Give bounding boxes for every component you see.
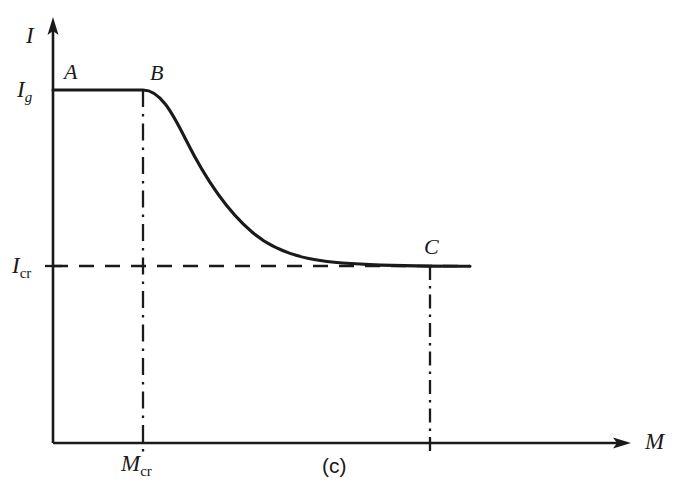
y-tick-icr-subscript: cr xyxy=(20,265,32,281)
x-tick-mcr-base: M xyxy=(121,451,140,476)
plot-canvas xyxy=(0,0,683,498)
data-curve xyxy=(53,90,470,266)
x-tick-mcr-subscript: cr xyxy=(140,463,152,479)
y-tick-ig-base: I xyxy=(17,77,25,102)
y-tick-label-icr: Icr xyxy=(12,254,31,281)
x-axis xyxy=(53,438,631,449)
x-tick-label-mcr: Mcr xyxy=(121,452,152,479)
point-label-c: C xyxy=(424,236,439,258)
y-tick-icr-base: I xyxy=(12,253,20,278)
x-axis-label: M xyxy=(645,430,664,453)
y-tick-ig-subscript: g xyxy=(25,89,33,105)
point-label-a: A xyxy=(64,61,77,83)
figure-caption: (c) xyxy=(322,455,347,476)
point-label-b: B xyxy=(150,62,163,84)
y-tick-label-ig: Ig xyxy=(17,78,32,105)
y-axis xyxy=(48,17,59,443)
y-axis-label: I xyxy=(26,24,34,47)
figure-container: I M Ig Icr Mcr A B C (c) xyxy=(0,0,683,498)
